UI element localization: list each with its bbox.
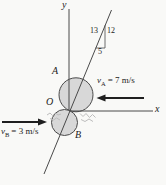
impact-spark-right [80,114,96,118]
disk-b-label: B [75,130,81,140]
velocity-b-subscript: B [5,131,9,138]
slope-hypotenuse-label: 13 [85,27,98,35]
diagram-canvas [0,0,166,185]
disk-a [59,78,93,112]
velocity-b-arrow [2,119,47,126]
y-axis-label: y [62,0,66,10]
velocity-b-arrowhead-icon [38,119,47,126]
x-axis-label: x [155,104,159,114]
velocity-a-arrowhead-icon [97,95,106,102]
velocity-b-label: vB= 3 m/s [1,127,38,136]
impact-spark-right-2 [81,119,93,122]
slope-run-label: 5 [95,48,105,56]
impact-diagram: y x O A B 13 12 5 vA= 7 m/s vB= 3 m/s [0,0,166,185]
disk-a-label: A [52,66,58,76]
velocity-a-subscript: A [101,80,106,87]
origin-label: O [46,97,53,107]
velocity-b-value: = 3 m/s [11,126,38,136]
velocity-a-value: = 7 m/s [108,75,135,85]
velocity-a-label: vA= 7 m/s [97,76,135,85]
velocity-a-arrow [97,95,145,102]
line-of-impact [44,10,112,174]
slope-rise-label: 12 [107,27,115,35]
